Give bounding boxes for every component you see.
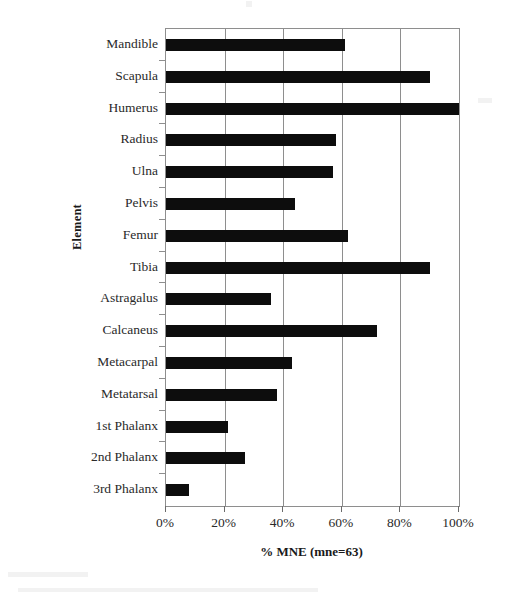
x-axis: 0%20%40%60%80%100% [165,506,460,536]
category-label: Metacarpal [97,354,158,370]
category-label: Tibia [130,259,158,275]
category-label: Metatarsal [101,386,158,402]
bar-row [166,93,459,125]
bar-row [166,220,459,252]
category-label: 1st Phalanx [95,418,158,434]
category-label: 2nd Phalanx [91,449,158,465]
y-axis-tick [159,251,165,252]
bar [166,357,292,369]
scan-artifact [478,98,492,103]
bar [166,166,333,178]
x-axis-tick-label: 40% [252,515,312,531]
y-axis-tick [159,346,165,347]
y-axis-tick [159,219,165,220]
bar [166,103,459,115]
bar-row [166,252,459,284]
y-axis-tick [159,60,165,61]
x-axis-tick [341,506,342,512]
x-axis-tick-label: 60% [311,515,371,531]
x-axis-tick [458,506,459,512]
bar-chart-figure: Element MandibleScapulaHumerusRadiusUlna… [0,0,523,595]
category-label: Femur [123,227,158,243]
bar [166,230,348,242]
category-label: Mandible [106,36,158,52]
bar-row [166,411,459,443]
bar [166,39,345,51]
y-axis-tick [159,92,165,93]
category-label: Ulna [132,163,158,179]
bar [166,134,336,146]
category-label: Humerus [109,100,159,116]
bar [166,325,377,337]
y-axis-category-labels: MandibleScapulaHumerusRadiusUlnaPelvisFe… [58,28,162,505]
bar [166,484,189,496]
x-axis-tick-label: 20% [194,515,254,531]
bar-row [166,61,459,93]
category-label: Radius [120,131,158,147]
bar [166,293,271,305]
bar [166,71,430,83]
bar-row [166,442,459,474]
category-label: Calcaneus [103,322,158,338]
category-label: Scapula [115,68,158,84]
y-axis-tick [159,314,165,315]
x-axis-tick-label: 0% [135,515,195,531]
y-axis-tick [159,187,165,188]
scan-artifact [8,572,88,577]
x-axis-tick-label: 100% [428,515,488,531]
scan-artifact [246,1,252,7]
bar-row [166,283,459,315]
category-label: Pelvis [125,195,158,211]
y-axis-tick [159,473,165,474]
bar-row [166,29,459,61]
x-axis-title: % MNE (mne=63) [165,544,458,560]
bar-row [166,379,459,411]
y-axis-tick [159,155,165,156]
plot-area [165,28,460,507]
category-label: 3rd Phalanx [93,481,158,497]
y-axis-tick [159,282,165,283]
x-axis-tick [399,506,400,512]
bar-row [166,474,459,506]
bar [166,198,295,210]
bar [166,262,430,274]
x-axis-tick [224,506,225,512]
x-axis-tick [165,506,166,512]
bar-row [166,347,459,379]
scan-artifact [18,588,318,592]
bar [166,389,277,401]
bar-row [166,315,459,347]
bar-row [166,188,459,220]
x-axis-tick [282,506,283,512]
bar [166,421,228,433]
x-axis-tick-label: 80% [369,515,429,531]
y-axis-tick [159,441,165,442]
bar-row [166,124,459,156]
y-axis-tick [159,378,165,379]
y-axis-tick [159,123,165,124]
bar-row [166,156,459,188]
bar [166,452,245,464]
y-axis-tick [159,410,165,411]
category-label: Astragalus [100,290,158,306]
